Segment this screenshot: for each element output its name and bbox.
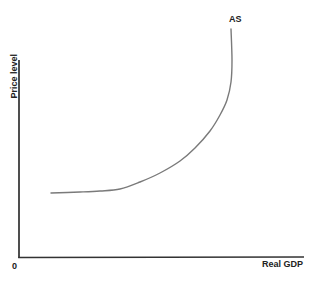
y-axis-label: Price level (10, 55, 19, 99)
as-chart: Price level Real GDP 0 AS (0, 0, 315, 285)
origin-label: 0 (12, 262, 17, 271)
x-axis-label: Real GDP (262, 260, 303, 269)
chart-canvas (0, 0, 315, 285)
as-curve-label: AS (229, 15, 242, 24)
as-curve (51, 29, 232, 193)
x-axis (18, 257, 304, 258)
